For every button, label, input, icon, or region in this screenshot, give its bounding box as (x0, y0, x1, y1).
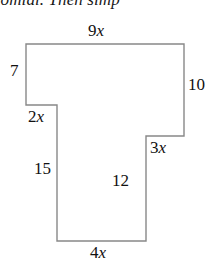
polygon-svg (0, 0, 216, 268)
dimension-label-top: 9x (88, 22, 104, 39)
dimension-label-right-notch: 3x (150, 139, 166, 156)
dimension-label-bottom: 4x (90, 244, 106, 261)
dimension-value-left-notch: 2 (28, 107, 37, 126)
dimension-label-stem-right: 12 (112, 172, 129, 189)
dimension-label-upper-left: 7 (10, 62, 19, 79)
dimension-variable-left-notch: x (37, 107, 45, 126)
figure-screenshot: nomial. Then simp 9x 7 10 2x 3x 15 12 4x (0, 0, 216, 268)
dimension-value-stem-right: 12 (112, 171, 129, 190)
dimension-value-stem-left: 15 (34, 159, 51, 178)
dimension-label-right: 10 (188, 76, 205, 93)
dimension-variable-right-notch: x (159, 138, 167, 157)
dimension-value-upper-left: 7 (10, 61, 19, 80)
geometry-figure (0, 0, 216, 268)
dimension-label-stem-left: 15 (34, 160, 51, 177)
dimension-variable-bottom: x (99, 243, 107, 262)
dimension-variable-top: x (97, 21, 105, 40)
dimension-value-bottom: 4 (90, 243, 99, 262)
dimension-value-right-notch: 3 (150, 138, 159, 157)
dimension-value-top: 9 (88, 21, 97, 40)
dimension-label-left-notch: 2x (28, 108, 44, 125)
dimension-value-right: 10 (188, 75, 205, 94)
